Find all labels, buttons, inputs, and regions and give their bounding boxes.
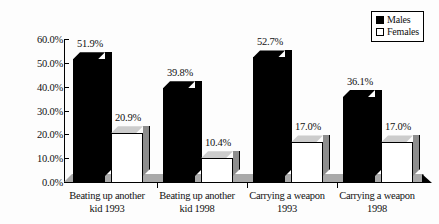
bar-females	[111, 133, 143, 183]
category-label-line: Beating up another	[152, 189, 242, 202]
y-axis-tick-mark	[64, 87, 69, 88]
bar-face-front	[73, 59, 105, 183]
bar-males	[343, 97, 375, 183]
x-axis-arrow-cap	[422, 174, 432, 183]
category-label-line: Carrying a weapon	[332, 189, 422, 202]
bar-males	[163, 88, 195, 183]
category-label-line: kid 1993	[62, 202, 152, 215]
legend: Males Females	[371, 11, 424, 42]
bar-females	[381, 142, 413, 183]
y-axis-tick: 50.0%	[0, 58, 72, 70]
hollow-square-icon	[376, 28, 384, 36]
bar-males	[253, 57, 285, 183]
bar-face-front	[253, 57, 285, 183]
category-label-line: 1993	[242, 202, 332, 215]
bar-side-outline	[143, 126, 150, 176]
y-axis-tick-mark	[64, 111, 69, 112]
category-label-line: Carrying a weapon	[242, 189, 332, 202]
y-axis-tick: 30.0%	[0, 106, 72, 118]
y-axis-tick: 0.0%	[0, 177, 72, 189]
bar-chart: 0.0%10.0%20.0%30.0%40.0%50.0%60.0% 51.9%…	[0, 0, 439, 224]
bar-face-top	[163, 81, 195, 88]
bar-females	[291, 142, 323, 183]
category-label-line: 1998	[332, 202, 422, 215]
filled-square-icon	[376, 16, 384, 24]
bar-face-top	[253, 50, 285, 57]
y-axis-tick-label: 10.0%	[37, 153, 63, 165]
y-axis-tick: 10.0%	[0, 153, 72, 165]
y-axis-tick-label: 30.0%	[37, 106, 63, 118]
bar-side-outline	[413, 135, 420, 176]
category-label-line: Beating up another	[62, 189, 152, 202]
bar-value-label: 39.8%	[157, 67, 203, 79]
bar-value-label: 10.4%	[195, 137, 241, 149]
legend-label-females: Females	[387, 26, 419, 38]
bar-face-front	[111, 133, 143, 183]
bar-face-top	[73, 52, 105, 59]
bar-side-outline	[233, 151, 240, 176]
legend-label-males: Males	[387, 14, 410, 26]
y-axis-tick-label: 0.0%	[42, 177, 63, 189]
x-axis-category-label: Carrying a weapon1998	[332, 189, 422, 215]
y-axis-tick-label: 20.0%	[37, 129, 63, 141]
bar-males	[73, 59, 105, 183]
bar-value-label: 52.7%	[247, 36, 293, 48]
x-axis-tick-mark	[247, 183, 248, 188]
bar-side-outline	[323, 135, 330, 176]
y-axis-tick: 40.0%	[0, 82, 72, 94]
y-axis-tick: 20.0%	[0, 129, 72, 141]
bar-face-front	[201, 158, 233, 183]
x-axis-category-label: Beating up anotherkid 1993	[62, 189, 152, 215]
y-axis-tick-label: 60.0%	[37, 34, 63, 46]
legend-item-females: Females	[376, 26, 419, 38]
y-axis-tick-mark	[64, 158, 69, 159]
y-axis-tick-label: 50.0%	[37, 58, 63, 70]
bar-face-front	[381, 142, 413, 183]
bar-value-label: 20.9%	[105, 112, 151, 124]
x-axis-category-label: Carrying a weapon1993	[242, 189, 332, 215]
x-axis-tick-mark	[157, 183, 158, 188]
bar-value-label: 17.0%	[375, 121, 421, 133]
y-axis-tick-mark	[64, 134, 69, 135]
x-axis-tick-mark	[337, 183, 338, 188]
bar-value-label: 36.1%	[337, 76, 383, 88]
bar-face-top	[291, 135, 323, 142]
y-axis-tick-mark	[64, 63, 69, 64]
bar-value-label: 51.9%	[67, 38, 113, 50]
y-axis-tick: 60.0%	[0, 34, 72, 46]
bar-face-front	[163, 88, 195, 183]
bar-face-top	[381, 135, 413, 142]
x-axis-category-label: Beating up anotherkid 1998	[152, 189, 242, 215]
bar-face-top	[201, 151, 233, 158]
bar-face-top	[343, 90, 375, 97]
bar-value-label: 17.0%	[285, 121, 331, 133]
category-label-line: kid 1998	[152, 202, 242, 215]
legend-item-males: Males	[376, 14, 419, 26]
bar-females	[201, 158, 233, 183]
bar-face-top	[111, 126, 143, 133]
bar-face-front	[291, 142, 323, 183]
y-axis-tick-label: 40.0%	[37, 82, 63, 94]
bar-face-front	[343, 97, 375, 183]
